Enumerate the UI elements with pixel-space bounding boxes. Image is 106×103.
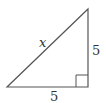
horizontal-leg-label: 5 — [50, 89, 58, 103]
hypotenuse-label: x — [39, 35, 47, 50]
right-triangle-diagram: x 5 5 — [0, 0, 106, 103]
vertical-leg-label: 5 — [92, 43, 100, 58]
right-angle-marker — [76, 75, 88, 87]
